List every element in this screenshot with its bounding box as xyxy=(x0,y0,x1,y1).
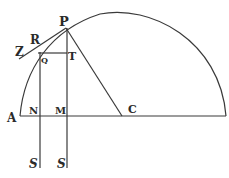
label-C: C xyxy=(128,103,137,116)
label-P: P xyxy=(59,14,69,29)
label-A: A xyxy=(6,111,17,125)
arc-curve xyxy=(20,12,226,116)
line-PC xyxy=(66,28,122,116)
label-M: M xyxy=(55,105,66,116)
label-S-left: S xyxy=(29,157,38,171)
label-T: T xyxy=(68,50,77,63)
label-Z: Z xyxy=(15,45,24,59)
label-Q: Q xyxy=(41,55,48,65)
label-R: R xyxy=(30,33,41,47)
label-S-right: S xyxy=(57,157,66,171)
diagram-canvas: P R Z Q T A N M C S S xyxy=(0,0,229,178)
label-N: N xyxy=(29,105,38,116)
